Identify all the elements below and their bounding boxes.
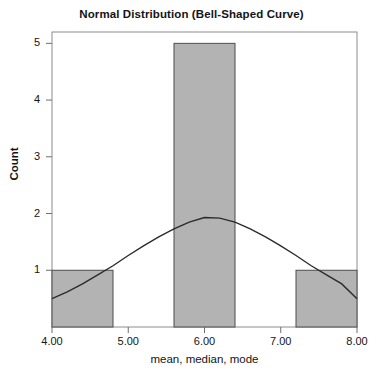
y-axis-ticks — [46, 43, 52, 270]
plot-canvas — [0, 0, 383, 383]
y-tick-label: 4 — [18, 93, 40, 105]
y-tick-label: 5 — [18, 36, 40, 48]
histogram-bar — [174, 43, 235, 327]
x-tick-label: 5.00 — [103, 335, 153, 347]
y-tick-label: 1 — [18, 263, 40, 275]
x-tick-label: 8.00 — [332, 335, 382, 347]
x-axis-ticks — [52, 327, 357, 333]
x-tick-label: 4.00 — [27, 335, 77, 347]
histogram-bar — [52, 270, 113, 327]
histogram-bar — [296, 270, 357, 327]
y-tick-label: 2 — [18, 207, 40, 219]
y-tick-label: 3 — [18, 150, 40, 162]
x-axis-title: mean, median, mode — [52, 353, 357, 365]
x-tick-label: 7.00 — [256, 335, 306, 347]
chart-figure: Normal Distribution (Bell-Shaped Curve) … — [0, 0, 383, 383]
y-axis-title: Count — [8, 134, 20, 194]
x-tick-label: 6.00 — [180, 335, 230, 347]
